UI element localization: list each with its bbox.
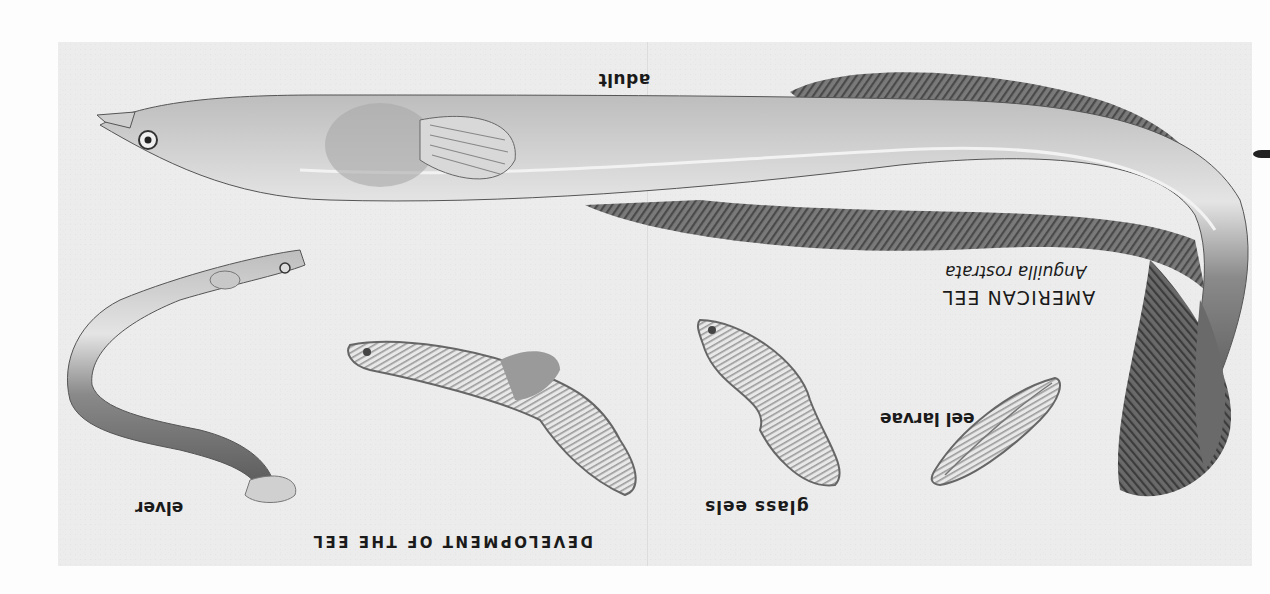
book-page: adult Anguilla rostrata AMERICAN EEL eel…	[0, 0, 1270, 594]
label-elver: elver	[135, 498, 183, 518]
plate-title: DEVELOPMENT OF THE EEL	[311, 532, 593, 550]
glass-eel-right	[698, 320, 840, 485]
glass-eel-left	[348, 342, 635, 495]
scientific-name: Anguilla rostrata	[945, 262, 1086, 282]
elver	[67, 250, 305, 503]
label-eel-larvae: eel larvae	[880, 409, 975, 429]
label-glass-eels: glass eels	[704, 497, 809, 517]
page-marker	[1253, 150, 1270, 158]
species-name: AMERICAN EEL	[942, 287, 1095, 309]
adult-eel	[97, 72, 1248, 496]
eel-larva	[932, 378, 1060, 485]
label-adult: adult	[598, 70, 650, 90]
